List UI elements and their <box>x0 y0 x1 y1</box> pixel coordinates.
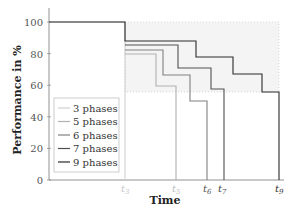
legend-3-phases: 3 phases <box>73 103 118 114</box>
ytick-20: 20 <box>30 143 43 154</box>
y-ticks: 0 20 40 60 80 100 <box>24 17 51 186</box>
xtick-t7: t7 <box>218 183 227 196</box>
legend-6-phases: 6 phases <box>73 130 118 141</box>
xtick-t6: t6 <box>203 183 212 196</box>
ytick-40: 40 <box>30 112 43 123</box>
ytick-100: 100 <box>24 17 43 28</box>
y-axis-label: Performance in % <box>11 45 24 155</box>
xtick-t9: t9 <box>275 183 284 196</box>
ytick-0: 0 <box>37 175 43 186</box>
xtick-t3: t3 <box>121 183 130 196</box>
legend: 3 phases 5 phases 6 phases 7 phases 9 ph… <box>54 98 119 172</box>
x-axis-label: Time <box>149 194 180 207</box>
x-ticks: t3 t5 t6 t7 t9 <box>121 183 284 196</box>
ytick-60: 60 <box>30 80 43 91</box>
step-chart: 0 20 40 60 80 100 Performance in % 3 pha… <box>0 0 297 211</box>
legend-9-phases: 9 phases <box>73 157 118 168</box>
ytick-80: 80 <box>30 49 43 60</box>
legend-5-phases: 5 phases <box>73 116 118 127</box>
legend-7-phases: 7 phases <box>73 143 118 154</box>
